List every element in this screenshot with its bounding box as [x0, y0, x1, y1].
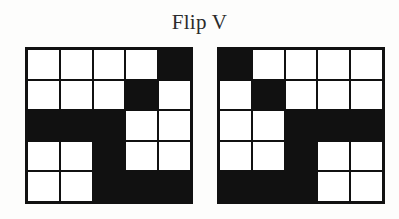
grid-cell[interactable] [125, 171, 158, 202]
grid-cell[interactable] [285, 49, 318, 80]
grid-cell[interactable] [252, 110, 285, 141]
grid-cell[interactable] [317, 49, 350, 80]
source-grid-container [25, 47, 193, 204]
grid-cell[interactable] [219, 171, 252, 202]
grid-cell[interactable] [158, 141, 191, 172]
grid-cell[interactable] [350, 49, 383, 80]
grid-cell[interactable] [350, 141, 383, 172]
grid-cell[interactable] [27, 141, 60, 172]
grid-cell[interactable] [60, 80, 93, 111]
grid-cell[interactable] [219, 49, 252, 80]
grid-cell[interactable] [125, 49, 158, 80]
grid-cell[interactable] [285, 80, 318, 111]
result-grid[interactable] [217, 47, 385, 204]
grid-cell[interactable] [317, 80, 350, 111]
grid-cell[interactable] [60, 110, 93, 141]
figure-canvas: Flip V [0, 0, 399, 219]
grid-cell[interactable] [158, 49, 191, 80]
figure-title: Flip V [0, 9, 399, 35]
grid-cell[interactable] [93, 80, 126, 111]
grid-cell[interactable] [317, 110, 350, 141]
grid-cell[interactable] [27, 171, 60, 202]
grid-cell[interactable] [219, 141, 252, 172]
grid-cell[interactable] [27, 110, 60, 141]
grid-cell[interactable] [285, 171, 318, 202]
grid-cell[interactable] [317, 141, 350, 172]
grid-cell[interactable] [60, 171, 93, 202]
grid-cell[interactable] [285, 110, 318, 141]
grid-cell[interactable] [158, 171, 191, 202]
result-grid-container [217, 47, 385, 204]
grid-cell[interactable] [27, 80, 60, 111]
grid-cell[interactable] [219, 110, 252, 141]
grid-cell[interactable] [252, 80, 285, 111]
grid-cell[interactable] [350, 80, 383, 111]
grid-cell[interactable] [60, 49, 93, 80]
grid-cell[interactable] [350, 110, 383, 141]
grid-cell[interactable] [27, 49, 60, 80]
grid-cell[interactable] [285, 141, 318, 172]
grid-cell[interactable] [252, 141, 285, 172]
grid-cell[interactable] [125, 141, 158, 172]
grid-cell[interactable] [252, 49, 285, 80]
source-grid[interactable] [25, 47, 193, 204]
grid-cell[interactable] [93, 110, 126, 141]
grid-cell[interactable] [125, 110, 158, 141]
grid-cell[interactable] [125, 80, 158, 111]
grid-cell[interactable] [93, 141, 126, 172]
grid-cell[interactable] [158, 80, 191, 111]
grid-cell[interactable] [93, 49, 126, 80]
grid-cell[interactable] [317, 171, 350, 202]
grid-cell[interactable] [350, 171, 383, 202]
grid-cell[interactable] [219, 80, 252, 111]
grid-cell[interactable] [158, 110, 191, 141]
grid-cell[interactable] [60, 141, 93, 172]
grid-cell[interactable] [93, 171, 126, 202]
grid-cell[interactable] [252, 171, 285, 202]
